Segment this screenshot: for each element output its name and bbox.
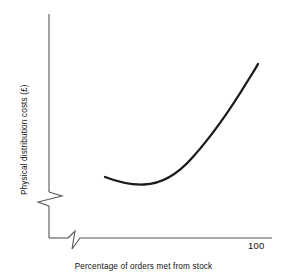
chart-plot-area [0,0,287,280]
cost-curve-line [105,64,258,185]
chart-figure: Physical distribution costs (£) Percenta… [0,0,287,280]
y-axis-break-icon [38,192,62,206]
y-axis-title: Physical distribution costs (£) [20,84,29,195]
x-axis [49,231,272,249]
x-axis-tick-label-100: 100 [248,240,264,251]
x-axis-title: Percentage of orders met from stock [0,262,287,271]
x-axis-break-icon [68,231,80,249]
y-axis [38,14,62,238]
